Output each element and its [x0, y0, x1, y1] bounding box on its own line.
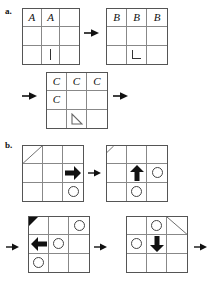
- cell-tick: [42, 46, 60, 64]
- grid-cell[interactable]: [29, 235, 49, 253]
- grid-cell[interactable]: [147, 235, 167, 253]
- grid-cell[interactable]: [49, 254, 69, 272]
- grid-cell[interactable]: [167, 235, 187, 253]
- grid-cell[interactable]: [127, 217, 147, 235]
- cell-letter: A: [23, 9, 41, 26]
- connector-a-1: [84, 28, 100, 38]
- circle-outline-icon: [151, 220, 162, 231]
- grid-cell[interactable]: B: [147, 9, 167, 27]
- cell-corner-triangle: [29, 217, 48, 234]
- cell-circle: [63, 183, 83, 201]
- grid-cell[interactable]: [60, 46, 79, 64]
- connector-b-2-mid: [94, 242, 108, 252]
- grid-cell[interactable]: [127, 235, 147, 253]
- grid-cell[interactable]: [69, 235, 89, 253]
- figure-canvas: a. AA BBB CCCC b.: [0, 0, 224, 283]
- cell-letter: C: [67, 73, 86, 90]
- circle-outline-icon: [131, 186, 142, 197]
- grid-cell[interactable]: [147, 183, 167, 201]
- grid-cell[interactable]: B: [107, 9, 127, 27]
- grid-cell[interactable]: [23, 164, 43, 182]
- grid-cell[interactable]: [87, 110, 107, 128]
- grid-cell[interactable]: [147, 254, 167, 272]
- grid-cell[interactable]: [29, 217, 49, 235]
- grid-cell[interactable]: A: [23, 9, 42, 27]
- grid-cell[interactable]: [147, 46, 167, 64]
- diagonal-line-icon: [107, 146, 126, 163]
- cell-letter: C: [47, 73, 66, 90]
- filled-corner-triangle-icon: [29, 217, 38, 226]
- grid-cell[interactable]: [147, 146, 167, 164]
- grid-cell[interactable]: [47, 110, 67, 128]
- grid-cell[interactable]: [49, 217, 69, 235]
- grid-cell[interactable]: [49, 235, 69, 253]
- circle-outline-icon: [33, 257, 44, 268]
- grid-a-3[interactable]: CCCC: [46, 72, 108, 129]
- grid-a-2[interactable]: BBB: [106, 8, 168, 65]
- grid-cell[interactable]: [67, 110, 87, 128]
- grid-cell[interactable]: [87, 91, 107, 109]
- grid-cell[interactable]: [63, 183, 83, 201]
- cell-circle: [127, 183, 146, 201]
- cell-circle: [29, 254, 48, 272]
- triangle-outline-icon: [71, 113, 83, 125]
- grid-cell[interactable]: [43, 146, 63, 164]
- grid-cell[interactable]: [107, 46, 127, 64]
- grid-cell[interactable]: [63, 164, 83, 182]
- arrow-left-icon: [31, 236, 47, 252]
- grid-cell[interactable]: [107, 146, 127, 164]
- grid-cell[interactable]: [147, 164, 167, 182]
- grid-cell[interactable]: C: [47, 91, 67, 109]
- grid-cell[interactable]: [29, 254, 49, 272]
- grid-cell[interactable]: C: [67, 73, 87, 91]
- grid-cell[interactable]: [167, 254, 187, 272]
- vertical-tick-icon: [50, 49, 51, 60]
- grid-b-3[interactable]: [28, 216, 90, 273]
- grid-cell[interactable]: A: [42, 9, 61, 27]
- grid-b-4[interactable]: [126, 216, 188, 273]
- grid-cell[interactable]: [60, 27, 79, 45]
- grid-cell[interactable]: B: [127, 9, 147, 27]
- grid-cell[interactable]: [42, 27, 61, 45]
- grid-a-1[interactable]: AA: [22, 8, 80, 65]
- grid-cell[interactable]: [127, 164, 147, 182]
- grid-cell[interactable]: C: [47, 73, 67, 91]
- grid-cell[interactable]: [23, 146, 43, 164]
- grid-cell[interactable]: [127, 27, 147, 45]
- circle-outline-icon: [131, 238, 142, 249]
- grid-cell[interactable]: [63, 146, 83, 164]
- grid-cell[interactable]: [69, 217, 89, 235]
- grid-cell[interactable]: [107, 164, 127, 182]
- grid-cell[interactable]: [23, 27, 42, 45]
- arrow-up-icon: [129, 165, 145, 181]
- diagonal-line-icon: [23, 146, 42, 163]
- grid-cell[interactable]: [23, 46, 42, 64]
- cell-triangle: [67, 110, 86, 128]
- connector-b-2-out: [194, 242, 208, 252]
- grid-b-1[interactable]: [22, 145, 84, 202]
- grid-cell[interactable]: [60, 9, 79, 27]
- grid-cell[interactable]: [127, 183, 147, 201]
- grid-cell[interactable]: [147, 27, 167, 45]
- grid-cell[interactable]: [127, 254, 147, 272]
- grid-cell[interactable]: [69, 254, 89, 272]
- grid-cell[interactable]: [107, 27, 127, 45]
- cell-circle: [147, 217, 166, 234]
- grid-cell[interactable]: [167, 217, 187, 235]
- grid-cell[interactable]: [127, 46, 147, 64]
- grid-cell[interactable]: [107, 183, 127, 201]
- connector-b-2-in: [6, 242, 20, 252]
- cell-letter: C: [47, 91, 66, 108]
- cell-letter: B: [147, 9, 167, 26]
- grid-cell[interactable]: [43, 164, 63, 182]
- arrow-right-icon: [65, 165, 81, 181]
- grid-cell[interactable]: [67, 91, 87, 109]
- grid-cell[interactable]: [42, 46, 61, 64]
- grid-cell[interactable]: [43, 183, 63, 201]
- grid-cell[interactable]: C: [87, 73, 107, 91]
- grid-cell[interactable]: [127, 146, 147, 164]
- grid-cell[interactable]: [23, 183, 43, 201]
- grid-cell[interactable]: [147, 217, 167, 235]
- grid-b-2[interactable]: [106, 145, 168, 202]
- cell-l-shape: [127, 46, 146, 64]
